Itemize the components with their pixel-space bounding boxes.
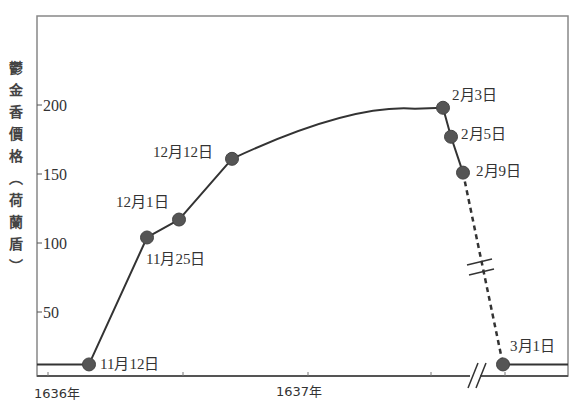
data-point xyxy=(83,358,96,371)
data-point xyxy=(497,358,510,371)
point-label: 2月3日 xyxy=(452,87,497,103)
axis-breaks xyxy=(467,259,494,388)
y-axis-label: 鬱金香價格︵荷蘭盾︶ xyxy=(8,60,24,274)
y-axis-label-char: ︶ xyxy=(8,258,23,274)
x-tick-label: 1636年 xyxy=(34,386,80,401)
y-axis-label-char: ︵ xyxy=(8,170,23,186)
point-label: 2月9日 xyxy=(476,163,521,179)
y-tick-label: 200 xyxy=(43,97,67,114)
point-label: 3月1日 xyxy=(510,338,555,354)
y-tick-label: 50 xyxy=(43,304,59,321)
point-label: 12月12日 xyxy=(153,144,213,160)
point-label: 11月12日 xyxy=(100,356,159,372)
series-line-dashed xyxy=(463,173,503,365)
point-label: 12月1日 xyxy=(116,194,169,210)
data-point xyxy=(437,101,450,114)
y-axis-label-char: 金 xyxy=(8,82,24,98)
y-tick-label: 150 xyxy=(43,166,67,183)
data-point xyxy=(445,130,458,143)
y-axis-label-char: 荷 xyxy=(8,192,23,208)
y-axis-label-char: 價 xyxy=(8,126,24,142)
line-break-mark xyxy=(469,269,494,275)
y-axis-label-char: 格 xyxy=(9,148,24,164)
y-ticks: 50100150200 xyxy=(37,97,67,321)
data-point xyxy=(141,231,154,244)
series-points xyxy=(83,101,510,371)
point-labels: 11月12日11月25日12月1日12月12日2月3日2月5日2月9日3月1日 xyxy=(100,87,555,373)
x-tick-label: 1637年 xyxy=(276,384,322,399)
data-point xyxy=(173,213,186,226)
y-tick-label: 100 xyxy=(43,235,67,252)
y-axis-label-char: 香 xyxy=(8,104,24,120)
y-axis-label-char: 蘭 xyxy=(9,214,23,230)
y-axis-label-char: 鬱 xyxy=(9,60,23,76)
y-axis-label-char: 盾 xyxy=(9,236,23,252)
data-point xyxy=(457,166,470,179)
point-label: 2月5日 xyxy=(461,126,506,142)
data-point xyxy=(226,152,239,165)
tulip-price-chart: 鬱金香價格︵荷蘭盾︶ 50100150200 1636年1637年 11月12日… xyxy=(0,0,576,410)
series-lines xyxy=(37,108,568,365)
point-label: 11月25日 xyxy=(146,251,205,267)
line-break-mark xyxy=(467,259,492,265)
